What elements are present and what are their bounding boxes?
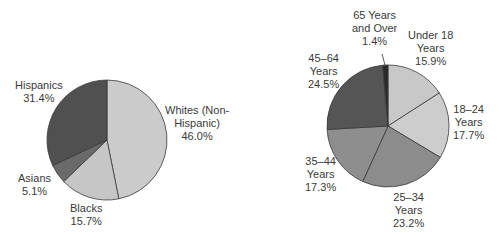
label-25-34: 25–34Years23.2% — [393, 191, 424, 230]
label-45-64: 45–64Years24.5% — [308, 52, 339, 91]
label-whites: Whites (Non-Hispanic)46.0% — [165, 104, 229, 143]
label-blacks: Blacks15.7% — [70, 202, 102, 228]
label-35-44: 35–44Years17.3% — [305, 155, 336, 194]
label-65-over: 65 Yearsand Over1.4% — [352, 9, 397, 48]
label-under-18: Under 18Years15.9% — [408, 29, 453, 68]
label-asians: Asians5.1% — [18, 172, 51, 198]
label-18-24: 18–24Years17.7% — [453, 103, 484, 142]
pie-slice — [107, 80, 167, 199]
label-hispanics: Hispanics31.4% — [15, 79, 63, 105]
